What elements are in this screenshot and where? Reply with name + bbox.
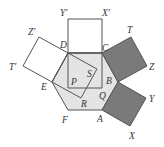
label-X-prime: X′ xyxy=(101,8,111,18)
label-P: P xyxy=(70,77,77,87)
label-Z: Z xyxy=(149,62,155,72)
label-D: D xyxy=(59,40,67,50)
label-X: X xyxy=(128,131,136,141)
label-T-prime: T′ xyxy=(9,62,17,72)
label-E: E xyxy=(40,82,47,92)
label-R: R xyxy=(80,99,87,109)
label-F: F xyxy=(61,115,68,125)
label-C: C xyxy=(102,43,109,53)
label-B: B xyxy=(106,76,112,86)
label-Z-prime: Z′ xyxy=(28,27,36,37)
square-DC-outer xyxy=(68,19,102,53)
hexagon-squares-diagram: A B C D E F P Q R S T X Y Z T′ X′ Y′ Z′ xyxy=(0,0,164,147)
label-T: T xyxy=(127,25,133,35)
label-Y: Y xyxy=(149,94,156,104)
label-Q: Q xyxy=(99,91,106,101)
label-A: A xyxy=(96,114,103,124)
label-Y-prime: Y′ xyxy=(60,8,68,18)
label-S: S xyxy=(87,69,92,79)
